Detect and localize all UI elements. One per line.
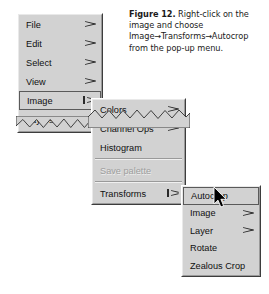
menu-item-channel-ops[interactable]: Channel Ops xyxy=(93,119,184,138)
menu-item-label: Select xyxy=(26,58,78,68)
submenu-arrow-icon xyxy=(242,226,255,235)
submenu-arrow-icon xyxy=(167,189,180,198)
transforms-submenu-body: AutocropImageLayerRotateZealous Crop xyxy=(182,186,260,276)
menu-item-label: Zealous Crop xyxy=(190,261,255,271)
menu-item-label: Histogram xyxy=(100,143,180,153)
menu-item-colors[interactable]: Colors xyxy=(93,100,184,119)
submenu-open-tick-icon xyxy=(167,189,169,197)
submenu-open-tick-icon xyxy=(83,96,85,104)
menu-item-label: Save palette xyxy=(100,166,180,176)
submenu-arrow-icon xyxy=(84,20,97,29)
menu-item-label: Transforms xyxy=(100,189,161,199)
figure-caption-text-2: Transforms xyxy=(161,31,206,41)
menu-item-autocrop[interactable]: Autocrop xyxy=(183,187,259,205)
image-submenu-body: ColorsChannel OpsHistogramSave paletteTr… xyxy=(92,99,185,204)
menu-item-label: Rotate xyxy=(190,243,255,253)
menu-separator xyxy=(95,158,182,160)
menu-item-label: Image xyxy=(27,96,77,106)
figure-caption-label: Figure 12. xyxy=(129,9,176,19)
menu-item-label: Channel Ops xyxy=(100,124,161,134)
menu-item-image[interactable]: Image xyxy=(19,91,101,110)
menu-item-image[interactable]: Image xyxy=(183,205,259,223)
menu-item-select[interactable]: Select xyxy=(19,53,101,72)
submenu-arrow-icon xyxy=(242,209,255,218)
submenu-arrow-icon xyxy=(84,77,97,86)
menu-item-label: Layer xyxy=(190,226,236,236)
menu-item-label: Image xyxy=(190,208,236,218)
figure-illustration: Figure 12. Right-click on the image and … xyxy=(0,0,269,294)
menu-item-transforms[interactable]: Transforms xyxy=(93,184,184,203)
menu-item-layer[interactable]: Layer xyxy=(183,222,259,240)
submenu-arrow-icon xyxy=(84,58,97,67)
menu-item-label: Autocrop xyxy=(191,191,254,201)
submenu-arrow-icon xyxy=(167,105,180,114)
figure-caption: Figure 12. Right-click on the image and … xyxy=(129,9,261,54)
transforms-submenu[interactable]: AutocropImageLayerRotateZealous Crop xyxy=(181,185,261,277)
menu-separator xyxy=(95,181,182,183)
menu-item-rotate[interactable]: Rotate xyxy=(183,240,259,258)
menu-item-layers[interactable]: Layers xyxy=(19,110,101,129)
submenu-arrow-icon xyxy=(84,39,97,48)
menu-item-edit[interactable]: Edit xyxy=(19,34,101,53)
menu-item-file[interactable]: File xyxy=(19,15,101,34)
menu-item-save-palette: Save palette xyxy=(93,161,184,180)
menu-item-label: File xyxy=(26,20,78,30)
menu-item-label: View xyxy=(26,77,78,87)
menu-item-view[interactable]: View xyxy=(19,72,101,91)
image-submenu[interactable]: ColorsChannel OpsHistogramSave paletteTr… xyxy=(91,98,186,205)
submenu-arrow-icon xyxy=(167,124,180,133)
menu-item-label: Layers xyxy=(26,115,78,125)
menu-item-label: Edit xyxy=(26,39,78,49)
main-menu-body: FileEditSelectViewImageLayers xyxy=(18,14,102,132)
menu-item-histogram[interactable]: Histogram xyxy=(93,138,184,157)
menu-item-zealous-crop[interactable]: Zealous Crop xyxy=(183,257,259,275)
menu-item-label: Colors xyxy=(100,105,161,115)
